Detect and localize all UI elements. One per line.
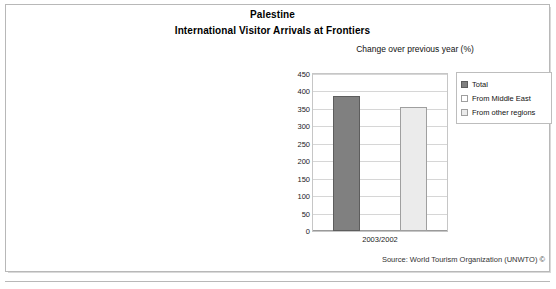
source-note: Source: World Tourism Organization (UNWT… bbox=[382, 255, 545, 264]
y-axis-tick-label: 50 bbox=[302, 209, 310, 218]
page-subtitle: International Visitor Arrivals at Fronti… bbox=[0, 25, 545, 36]
legend-label-total: Total bbox=[472, 80, 488, 89]
gridline bbox=[313, 91, 447, 92]
bar-chart: Change over previous year (%) 4504003503… bbox=[310, 44, 550, 254]
bar-other bbox=[400, 107, 427, 231]
y-axis-tick-label: 450 bbox=[297, 70, 310, 79]
panel-shadow-right bbox=[550, 7, 551, 273]
footer-bar bbox=[5, 281, 550, 287]
plot-area: 450400350300250200150100500 bbox=[312, 73, 448, 232]
gridline bbox=[313, 74, 447, 75]
legend-item-other-regions: From other regions bbox=[461, 105, 547, 119]
x-axis-tick-label: 2003/2002 bbox=[312, 235, 448, 244]
y-axis-tick-label: 300 bbox=[297, 122, 310, 131]
y-axis-tick-label: 250 bbox=[297, 139, 310, 148]
legend-swatch-icon-total bbox=[461, 81, 468, 88]
y-axis-tick-label: 350 bbox=[297, 104, 310, 113]
legend-item-middle-east: From Middle East bbox=[461, 91, 547, 105]
panel-shadow-bottom bbox=[8, 272, 551, 273]
y-axis-tick-label: 400 bbox=[297, 87, 310, 96]
chart-legend: Total From Middle East From other region… bbox=[456, 72, 552, 124]
legend-swatch-icon-middle-east bbox=[461, 95, 468, 102]
y-axis-tick-label: 100 bbox=[297, 192, 310, 201]
legend-label-other-regions: From other regions bbox=[472, 108, 535, 117]
y-axis-tick-label: 0 bbox=[306, 227, 310, 236]
page-title: Palestine bbox=[0, 9, 545, 20]
legend-swatch-icon-other-regions bbox=[461, 109, 468, 116]
chart-title: Change over previous year (%) bbox=[320, 44, 510, 54]
figure-root: Palestine International Visitor Arrivals… bbox=[0, 0, 556, 289]
y-axis-tick-label: 150 bbox=[297, 174, 310, 183]
legend-label-middle-east: From Middle East bbox=[472, 94, 531, 103]
legend-item-total: Total bbox=[461, 77, 547, 91]
y-axis-tick-label: 200 bbox=[297, 157, 310, 166]
bar-total bbox=[333, 96, 360, 231]
